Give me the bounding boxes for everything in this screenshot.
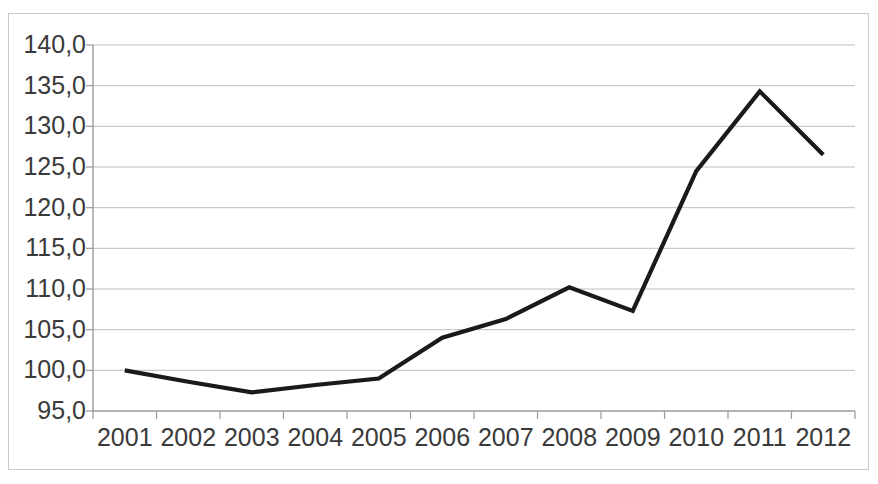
y-axis-tick-label: 125,0 — [23, 154, 86, 179]
data-series-line — [125, 91, 824, 392]
x-axis-tick-label: 2004 — [284, 425, 348, 465]
x-axis-tick-label: 2003 — [220, 425, 284, 465]
x-axis-tick-label: 2001 — [93, 425, 157, 465]
y-axis-tick-label: 140,0 — [23, 32, 86, 57]
y-axis-tick-label: 105,0 — [23, 317, 86, 342]
x-axis-tick-label: 2007 — [474, 425, 538, 465]
gridlines — [93, 45, 855, 370]
y-axis-tick-label: 135,0 — [23, 73, 86, 98]
x-axis-tick-label: 2012 — [792, 425, 856, 465]
x-axis-labels: 2001200220032004200520062007200820092010… — [93, 425, 855, 465]
x-axis-tick-marks — [93, 411, 855, 419]
y-axis-tick-label: 100,0 — [23, 357, 86, 382]
x-axis-tick-label: 2009 — [601, 425, 665, 465]
y-axis-tick-marks — [86, 45, 93, 411]
y-axis-tick-label: 115,0 — [25, 235, 86, 260]
x-axis-tick-label: 2002 — [157, 425, 221, 465]
x-axis-tick-label: 2010 — [665, 425, 729, 465]
y-axis-tick-label: 95,0 — [37, 398, 86, 423]
y-axis-tick-label: 130,0 — [23, 113, 86, 138]
y-axis-tick-label: 120,0 — [23, 195, 86, 220]
y-axis-labels: 140,0135,0130,0125,0120,0115,0110,0105,0… — [14, 0, 86, 484]
x-axis-tick-label: 2008 — [538, 425, 602, 465]
x-axis-tick-label: 2011 — [728, 425, 792, 465]
plot-area — [0, 0, 878, 484]
x-axis-tick-label: 2006 — [411, 425, 475, 465]
line-chart-figure: 140,0135,0130,0125,0120,0115,0110,0105,0… — [0, 0, 878, 484]
y-axis-tick-label: 110,0 — [25, 276, 86, 301]
x-axis-tick-label: 2005 — [347, 425, 411, 465]
